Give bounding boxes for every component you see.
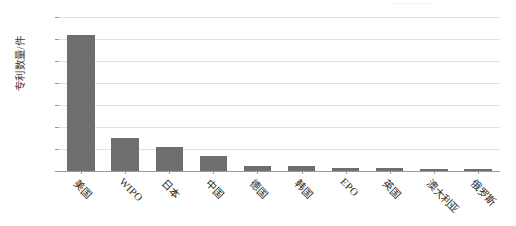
y-axis-label: 专利数量/件 [12,0,27,129]
x-tick-mark [213,172,214,174]
bar [111,138,138,171]
x-tick-group: 韩国 [280,174,324,226]
x-tick-group: 中国 [191,174,235,226]
x-tick-group: WIPO [103,174,147,226]
bar [332,168,359,171]
x-tick-group: 澳大利亚 [412,174,456,226]
bar-slot [464,17,491,171]
x-tick-group: 德国 [235,174,279,226]
x-tick-group: 俄罗斯 [456,174,500,226]
x-tick-label: 日本 [159,176,184,201]
clipped-caption-strip: — — — — — [392,1,510,5]
x-tick-mark [169,172,170,174]
bar-slot [376,17,403,171]
x-tick-group: 日本 [147,174,191,226]
x-tick-label: 英国 [379,176,404,201]
x-tick-mark [302,172,303,174]
bar [244,166,271,172]
bar-slot [244,17,271,171]
x-axis-tick-labels: 美国WIPO日本中国德国韩国EPO英国澳大利亚俄罗斯 [59,174,500,226]
bar-slot [111,17,138,171]
x-tick-group: 美国 [59,174,103,226]
bar [67,35,94,171]
x-tick-mark [125,172,126,174]
bar-slot [67,17,94,171]
bar [288,166,315,172]
x-tick-mark [81,172,82,174]
x-tick-group: 英国 [368,174,412,226]
bar [200,156,227,171]
bar [156,147,183,171]
bar-chart-figure: — — — — — 专利数量/件 010203040506070 美国WIPO日… [0,0,516,226]
x-tick-mark [390,172,391,174]
bar-series [59,17,500,171]
bar [376,168,403,171]
bar [464,169,491,171]
x-tick-label: 中国 [203,176,228,201]
x-tick-label: 韩国 [291,176,316,201]
x-tick-mark [434,172,435,174]
plot-area: 010203040506070 [59,17,500,172]
bar [420,169,447,171]
x-tick-label: EPO [338,176,360,198]
x-tick-label: 德国 [247,176,272,201]
bar-slot [200,17,227,171]
x-tick-label: WIPO [117,176,145,204]
bar-slot [288,17,315,171]
x-tick-mark [478,172,479,174]
x-tick-mark [346,172,347,174]
bar-slot [332,17,359,171]
x-tick-label: 美国 [70,176,95,201]
bar-slot [156,17,183,171]
bar-slot [420,17,447,171]
x-tick-mark [257,172,258,174]
x-tick-label: 俄罗斯 [467,176,499,208]
x-tick-group: EPO [324,174,368,226]
